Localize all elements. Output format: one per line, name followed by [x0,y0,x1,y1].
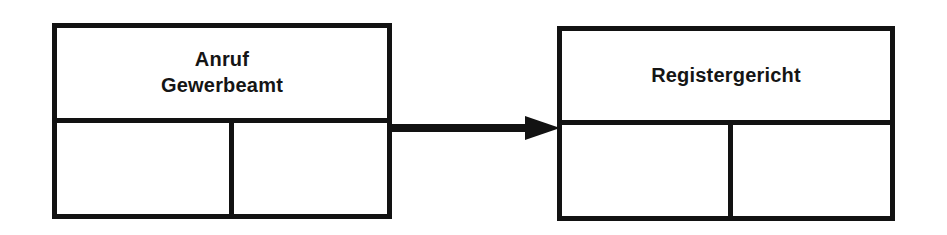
node-anruf-gewerbeamt[interactable]: Anruf Gewerbeamt [52,23,392,219]
node-bottom-cell [57,123,387,214]
diagram-canvas: Anruf Gewerbeamt Registergericht [0,0,947,235]
arrow-shaft [390,124,525,132]
node-registergericht[interactable]: Registergericht [557,26,895,221]
node-title-cell: Anruf Gewerbeamt [57,28,387,123]
node-bottom-cell [562,125,890,216]
node-title-label: Anruf Gewerbeamt [155,47,289,98]
node-title-cell: Registergericht [562,31,890,125]
connector-arrow-anruf-to-registergericht [390,116,560,140]
node-bottom-cell-divider [728,125,733,216]
node-bottom-cell-divider [229,123,234,214]
node-title-label: Registergericht [645,63,807,89]
arrow-head-icon [525,116,560,140]
